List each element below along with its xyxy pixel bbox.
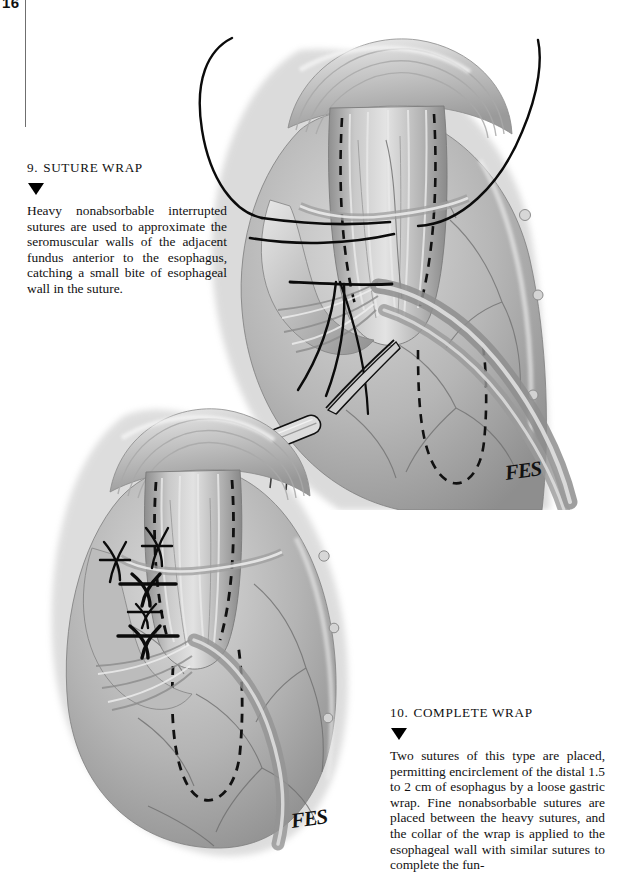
section-heading-10: 10.COMPLETE WRAP [390,705,605,721]
section-number-9: 9. [27,160,38,175]
section-body-9: Heavy nonabsorbable interrupted sutures … [27,203,227,297]
section-title-10: COMPLETE WRAP [413,705,532,720]
down-triangle-icon [28,183,44,195]
textbook-page: 16 [0,0,629,878]
section-complete-wrap: 10.COMPLETE WRAP Two sutures of this typ… [390,705,605,873]
section-title-9: SUTURE WRAP [43,160,143,175]
down-triangle-icon [391,728,407,740]
artist-signature-lower: FES [288,804,329,833]
section-suture-wrap: 9.SUTURE WRAP Heavy nonabsorbable interr… [27,160,227,297]
section-body-10: Two sutures of this type are placed, per… [390,748,605,873]
svg-text:FES: FES [288,804,329,833]
section-number-10: 10. [390,705,408,720]
page-number: 16 [2,0,20,11]
section-heading-9: 9.SUTURE WRAP [27,160,227,176]
margin-rule [25,0,26,127]
illustration-complete-wrap: FES [28,388,398,878]
